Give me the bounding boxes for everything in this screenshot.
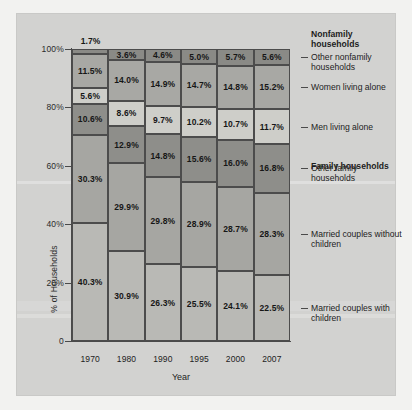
- bar-segment[interactable]: 28.3%: [254, 193, 290, 276]
- segment-value-label: 28.3%: [260, 229, 285, 239]
- bar-segment[interactable]: 14.7%: [181, 64, 217, 107]
- segment-value-label: 30.9%: [114, 291, 139, 301]
- bar-segment[interactable]: 9.7%: [145, 106, 181, 134]
- bar-segment[interactable]: 14.0%: [108, 60, 144, 101]
- legend-item-item-married-with: Married couples with children: [311, 303, 403, 323]
- segment-value-label: 16.8%: [260, 163, 285, 173]
- bar-segment[interactable]: 14.8%: [217, 66, 253, 109]
- plot-area: 40.3%30.3%10.6%5.6%11.5%1.7%30.9%29.9%12…: [72, 49, 290, 341]
- x-axis-tick-label-2000: 2000: [217, 354, 253, 364]
- bar-segment[interactable]: 16.8%: [254, 144, 290, 193]
- bar-segment[interactable]: 8.6%: [108, 101, 144, 126]
- segment-value-label: 4.6%: [153, 50, 173, 60]
- segment-value-label: 15.6%: [187, 154, 212, 164]
- segment-value-label: 29.9%: [114, 202, 139, 212]
- segment-value-label: 14.8%: [151, 151, 176, 161]
- segment-value-label: 10.6%: [78, 114, 103, 124]
- segment-value-label: 29.8%: [151, 216, 176, 226]
- bar-segment[interactable]: 30.3%: [72, 135, 108, 223]
- bar-segment[interactable]: 40.3%: [72, 223, 108, 341]
- segment-value-label: 5.6%: [80, 91, 100, 101]
- bar-segment[interactable]: 29.9%: [108, 163, 144, 250]
- segment-value-label: 5.0%: [189, 52, 209, 62]
- segment-value-label: 28.7%: [223, 224, 248, 234]
- bar-2000[interactable]: 24.1%28.7%16.0%10.7%14.8%5.7%: [217, 49, 253, 341]
- segment-value-label: 28.9%: [187, 219, 212, 229]
- x-axis-tick-label-1995: 1995: [181, 354, 217, 364]
- y-axis-title: % of Households: [41, 124, 55, 244]
- bar-segment[interactable]: 5.0%: [181, 49, 217, 64]
- bar-segment[interactable]: 10.2%: [181, 107, 217, 137]
- legend-item-item-other-nonfamily: Other nonfamily households: [311, 52, 403, 72]
- bar-2007[interactable]: 22.5%28.3%16.8%11.7%15.2%5.6%: [254, 49, 290, 341]
- x-axis-line: [71, 341, 291, 342]
- bar-segment[interactable]: 11.5%: [72, 54, 108, 88]
- segment-value-label: 16.0%: [223, 158, 248, 168]
- bar-1990[interactable]: 26.3%29.8%14.8%9.7%14.9%4.6%: [145, 49, 181, 341]
- segment-value-label: 11.5%: [78, 66, 102, 76]
- y-axis-tick: [65, 166, 72, 167]
- legend-item-item-other-family: Other family households: [311, 163, 403, 183]
- y-axis-tick-label: 100%: [20, 44, 64, 54]
- segment-value-label: 15.2%: [260, 82, 285, 92]
- bar-segment[interactable]: 16.0%: [217, 140, 253, 187]
- bar-1995[interactable]: 25.5%28.9%15.6%10.2%14.7%5.0%: [181, 49, 217, 341]
- legend-connector-dash: [301, 234, 308, 235]
- bar-segment[interactable]: 28.7%: [217, 187, 253, 271]
- external-value-label-1970: 1.7%: [72, 36, 109, 46]
- segment-value-label: 14.9%: [151, 79, 176, 89]
- segment-value-label: 10.2%: [187, 117, 212, 127]
- bar-segment[interactable]: 14.9%: [145, 62, 181, 106]
- legend-connector-dash: [301, 127, 308, 128]
- y-axis-tick: [65, 224, 72, 225]
- y-axis-tick: [65, 283, 72, 284]
- y-axis-tick: [65, 49, 72, 50]
- segment-value-label: 5.7%: [226, 52, 246, 62]
- bar-segment[interactable]: 12.9%: [108, 126, 144, 164]
- legend-item-group-nonfamily: Nonfamily households: [311, 29, 403, 49]
- bar-segment[interactable]: 15.2%: [254, 65, 290, 109]
- bar-segment[interactable]: 29.8%: [145, 177, 181, 264]
- legend-connector-dash: [301, 87, 308, 88]
- bar-segment[interactable]: 25.5%: [181, 267, 217, 341]
- bar-segment[interactable]: 15.6%: [181, 137, 217, 183]
- segment-value-label: 40.3%: [78, 277, 103, 287]
- bar-segment[interactable]: 10.6%: [72, 104, 108, 135]
- x-axis-tick-label-1980: 1980: [108, 354, 144, 364]
- bar-segment[interactable]: 5.7%: [217, 49, 253, 66]
- segment-value-label: 22.5%: [260, 303, 285, 313]
- bar-segment[interactable]: 3.6%: [108, 49, 144, 60]
- chart-legend: Nonfamily householdsOther nonfamily hous…: [295, 14, 395, 395]
- legend-connector-dash: [301, 57, 308, 58]
- bar-1970[interactable]: 40.3%30.3%10.6%5.6%11.5%1.7%: [72, 49, 108, 341]
- bar-segment[interactable]: 5.6%: [254, 49, 290, 65]
- segment-value-label: 14.7%: [187, 80, 212, 90]
- bar-segment[interactable]: 14.8%: [145, 134, 181, 177]
- segment-value-label: 3.6%: [117, 50, 137, 60]
- bar-segment[interactable]: 4.6%: [145, 49, 181, 62]
- segment-value-label: 8.6%: [117, 108, 137, 118]
- bar-segment[interactable]: 5.6%: [72, 88, 108, 104]
- bar-segment[interactable]: 10.7%: [217, 109, 253, 140]
- x-axis-tick-label-2007: 2007: [254, 354, 290, 364]
- segment-value-label: 5.6%: [262, 52, 282, 62]
- segment-value-label: 30.3%: [78, 174, 103, 184]
- bar-segment[interactable]: 24.1%: [217, 271, 253, 341]
- x-axis-tick-label-1970: 1970: [72, 354, 108, 364]
- y-axis-tick-label: 80%: [20, 102, 64, 112]
- segment-value-label: 26.3%: [151, 298, 176, 308]
- bar-segment[interactable]: 28.9%: [181, 182, 217, 266]
- segment-value-label: 12.9%: [114, 140, 139, 150]
- y-axis-title-text: % of Households: [49, 209, 59, 349]
- bar-segment[interactable]: 22.5%: [254, 275, 290, 341]
- bar-1980[interactable]: 30.9%29.9%12.9%8.6%14.0%3.6%: [108, 49, 144, 341]
- segment-value-label: 10.7%: [223, 119, 248, 129]
- bar-segment[interactable]: 11.7%: [254, 109, 290, 143]
- legend-connector-dash: [301, 308, 308, 309]
- bar-segment[interactable]: 1.7%: [72, 49, 108, 54]
- legend-item-item-women-alone: Women living alone: [311, 82, 403, 92]
- bar-segment[interactable]: 30.9%: [108, 251, 144, 341]
- y-axis-tick: [65, 107, 72, 108]
- bar-segment[interactable]: 26.3%: [145, 264, 181, 341]
- legend-connector-dash: [301, 168, 308, 169]
